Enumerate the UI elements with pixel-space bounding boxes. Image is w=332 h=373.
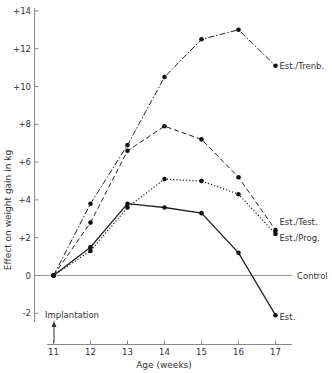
x-tick-label: 15 (196, 347, 207, 357)
control-label: Control (297, 271, 328, 281)
x-tick-label: 17 (270, 347, 281, 357)
x-tick-label: 13 (122, 347, 133, 357)
x-tick-label: 14 (159, 347, 170, 357)
data-point (162, 124, 167, 129)
x-axis: 11121314151617Age (weeks) (47, 341, 292, 371)
data-point (88, 245, 93, 250)
series-label: Est./Trenb. (280, 61, 325, 71)
data-point (88, 201, 93, 206)
line-chart: -20+2+4+6+8+10+12+14Effect on weight gai… (0, 0, 332, 373)
series-label: Est. (280, 312, 296, 322)
x-tick-label: 11 (48, 347, 59, 357)
data-point (236, 28, 241, 33)
annotations: Implantation (45, 310, 99, 343)
data-point (88, 220, 93, 225)
data-point (236, 251, 241, 256)
y-tick-label: +10 (13, 82, 31, 92)
series-est (51, 201, 278, 317)
data-point (199, 179, 204, 184)
y-tick-label: -2 (23, 308, 31, 318)
data-point (125, 143, 130, 148)
y-tick-label: +12 (13, 44, 31, 54)
data-point (162, 205, 167, 210)
series-group (51, 28, 278, 318)
data-point (199, 211, 204, 216)
y-tick-label: +8 (18, 119, 31, 129)
data-point (162, 75, 167, 80)
data-point (199, 37, 204, 42)
data-point (199, 137, 204, 142)
series-labels: Est./Trenb.Est./Test.Est./Prog.Est. (280, 61, 325, 322)
x-tick-label: 12 (85, 347, 96, 357)
data-point (236, 192, 241, 197)
data-point (236, 175, 241, 180)
y-tick-label: +6 (18, 157, 31, 167)
data-point (273, 313, 278, 318)
series-label: Est./Test. (280, 217, 318, 227)
y-axis: -20+2+4+6+8+10+12+14Effect on weight gai… (3, 6, 39, 322)
x-tick-label: 16 (233, 347, 244, 357)
arrow-head-icon (52, 321, 57, 327)
data-point (51, 273, 56, 278)
x-axis-title: Age (weeks) (136, 360, 192, 370)
y-tick-label: +2 (18, 233, 31, 243)
series-est-test (51, 124, 278, 278)
y-axis-title: Effect on weight gain in kg (3, 150, 13, 270)
data-point (162, 177, 167, 182)
data-point (273, 232, 278, 237)
y-tick-label: +4 (18, 195, 31, 205)
series-label: Est./Prog. (280, 233, 320, 243)
data-point (273, 63, 278, 68)
y-tick-label: +14 (13, 6, 31, 16)
data-point (125, 201, 130, 206)
control-line: Control (35, 271, 328, 281)
y-tick-label: 0 (26, 271, 31, 281)
implantation-label: Implantation (45, 310, 99, 320)
series-est-trenb (51, 28, 278, 278)
data-point (125, 148, 130, 153)
